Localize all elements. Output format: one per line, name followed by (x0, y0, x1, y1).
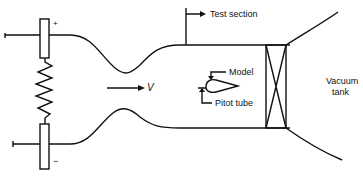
vacuum-tank-label-line2: tank (332, 88, 349, 97)
lower-lead-wire (13, 141, 40, 147)
vacuum-tank-lower-wall (286, 128, 342, 160)
velocity-arrowhead (138, 85, 145, 91)
velocity-label: V (147, 83, 154, 93)
test-section-label: Test section (210, 10, 258, 19)
test-section-marker (186, 8, 200, 45)
pitot-tube-label: Pitot tube (215, 99, 253, 108)
vacuum-tank-label-line1: Vacuum (326, 77, 358, 86)
vacuum-tank-upper-wall (286, 12, 338, 45)
lower-electrode (40, 124, 49, 169)
resistor (36, 58, 52, 124)
pitot-leader (198, 88, 212, 103)
diffuser-cross (266, 45, 286, 128)
upper-electrode (40, 19, 49, 58)
positive-terminal-label: + (53, 20, 58, 28)
negative-terminal-label: − (53, 157, 58, 166)
upper-nozzle-wall (49, 35, 290, 73)
model-body (206, 80, 238, 93)
lower-nozzle-wall (49, 109, 290, 144)
model-label: Model (229, 68, 254, 77)
upper-lead-wire (5, 33, 40, 38)
wind-tunnel-diagram: + − V Test section Model Pitot tube Vacu… (0, 0, 363, 177)
test-section-arrowhead (200, 11, 206, 17)
model-leader (211, 72, 226, 79)
